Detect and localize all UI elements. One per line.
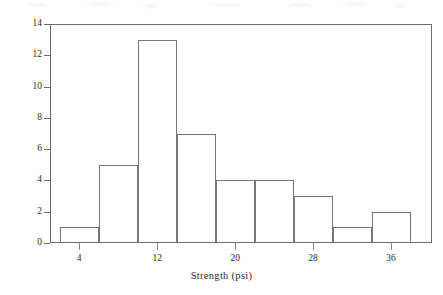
x-axis-tick-label: 12 bbox=[142, 253, 172, 263]
histogram-bar bbox=[255, 180, 294, 243]
x-axis-tick bbox=[157, 243, 158, 250]
y-axis-tick-label: 14 bbox=[20, 19, 42, 29]
histogram-bar bbox=[216, 180, 255, 243]
histogram-bar bbox=[138, 40, 177, 243]
x-axis-tick-label: 28 bbox=[298, 253, 328, 263]
y-axis-tick bbox=[44, 24, 50, 25]
x-axis-tick-label: 20 bbox=[220, 253, 250, 263]
histogram-bar bbox=[99, 165, 138, 243]
x-axis-tick-label: 4 bbox=[64, 253, 94, 263]
y-axis-tick-label: 12 bbox=[20, 50, 42, 60]
y-axis-tick-label: 8 bbox=[20, 113, 42, 123]
y-axis-tick bbox=[44, 55, 50, 56]
histogram-bar bbox=[177, 134, 216, 244]
x-axis-tick bbox=[313, 243, 314, 250]
y-axis-tick bbox=[44, 118, 50, 119]
histogram-bar bbox=[60, 227, 99, 243]
y-axis-tick bbox=[44, 87, 50, 88]
histogram-figure: 02468101214 Frequency 412202836 Strength… bbox=[0, 0, 443, 295]
y-axis-tick-label: 6 bbox=[20, 144, 42, 154]
scan-artifact bbox=[0, 0, 443, 12]
histogram-bar bbox=[294, 196, 333, 243]
x-axis-title: Strength (psi) bbox=[0, 270, 443, 281]
histogram-bar bbox=[333, 227, 372, 243]
x-axis-tick bbox=[79, 243, 80, 250]
x-axis-tick-label: 36 bbox=[376, 253, 406, 263]
y-axis-tick-label: 10 bbox=[20, 82, 42, 92]
y-axis-tick bbox=[44, 243, 50, 244]
histogram-bar bbox=[372, 212, 411, 243]
y-axis-tick-label: 2 bbox=[20, 207, 42, 217]
histogram-bars bbox=[50, 24, 432, 243]
y-axis-tick bbox=[44, 212, 50, 213]
x-axis-tick bbox=[235, 243, 236, 250]
y-axis-tick-label: 0 bbox=[20, 238, 42, 248]
y-axis-tick bbox=[44, 149, 50, 150]
y-axis-tick-label: 4 bbox=[20, 175, 42, 185]
y-axis-tick bbox=[44, 180, 50, 181]
x-axis-tick bbox=[391, 243, 392, 250]
